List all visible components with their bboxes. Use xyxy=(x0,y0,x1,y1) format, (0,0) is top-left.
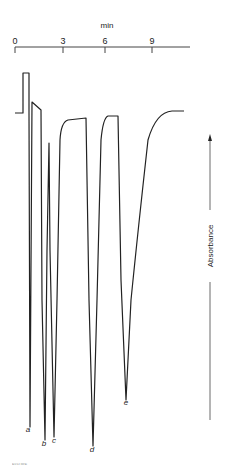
tick-label-3: 3 xyxy=(60,36,65,46)
absorbance-axis: Absorbance xyxy=(206,134,215,420)
time-axis: 0 3 6 9 min xyxy=(12,21,190,53)
peak-label-b: b xyxy=(42,439,47,448)
peak-label-c: c xyxy=(52,436,56,445)
tick-label-6: 6 xyxy=(102,36,107,46)
axis-unit-label: min xyxy=(101,21,114,30)
tick-label-9: 9 xyxy=(149,36,154,46)
absorbance-trace xyxy=(15,73,184,446)
chromatogram-chart: 0 3 6 9 min a b c d e Absorbance xyxy=(0,0,233,467)
arrow-up-icon xyxy=(208,134,212,141)
tick-label-0: 0 xyxy=(12,36,17,46)
peak-label-d: d xyxy=(90,445,95,454)
peak-label-e: e xyxy=(124,398,129,407)
peak-label-a: a xyxy=(26,425,31,434)
figure-caption: FIGURE xyxy=(12,462,227,465)
absorbance-label: Absorbance xyxy=(206,224,215,267)
